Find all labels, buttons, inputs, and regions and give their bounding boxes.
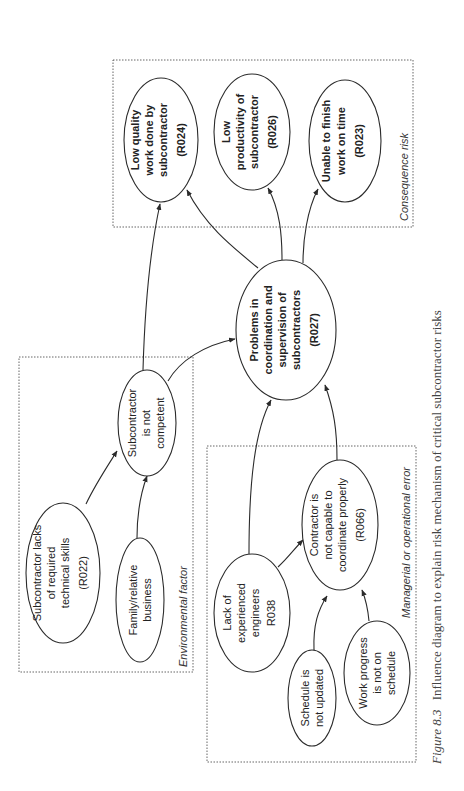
edge-r022-notcompetent xyxy=(86,451,117,504)
svg-text:coordinate properly: coordinate properly xyxy=(336,477,348,572)
svg-text:is not on: is not on xyxy=(371,652,383,694)
svg-text:work done by: work done by xyxy=(143,104,155,177)
figure-caption-text: Influence diagram to explain risk mechan… xyxy=(429,310,444,700)
svg-text:Work progress: Work progress xyxy=(357,637,369,709)
group-label-consequence: Consequence risk xyxy=(398,132,410,221)
svg-text:Schedule is: Schedule is xyxy=(299,669,311,726)
svg-text:Subcontractor: Subcontractor xyxy=(126,388,138,457)
figure-caption: Figure 8.3 Influence diagram to explain … xyxy=(429,310,444,765)
node-r024: Low quality work done by subcontractor (… xyxy=(124,78,198,202)
svg-text:Subcontractor lacks: Subcontractor lacks xyxy=(31,524,43,621)
edge-r038-r027 xyxy=(249,400,271,554)
node-schedule: Schedule is not updated xyxy=(288,650,336,746)
svg-text:of required: of required xyxy=(45,547,57,600)
svg-text:(R024): (R024) xyxy=(175,123,187,157)
edge-r027-r023 xyxy=(303,189,318,263)
svg-text:competent: competent xyxy=(154,397,166,448)
svg-text:(R022): (R022) xyxy=(77,556,89,590)
node-r038: Lack of experienced engineers R038 xyxy=(214,554,290,672)
edge-notcompetent-r024 xyxy=(143,204,160,370)
svg-text:Unable to finish: Unable to finish xyxy=(320,99,332,182)
svg-text:is not: is not xyxy=(140,410,152,436)
svg-text:R038: R038 xyxy=(265,600,277,626)
edge-schedule-r066 xyxy=(314,596,327,650)
group-label-managerial: Managerial or operational error xyxy=(400,466,412,618)
svg-text:supervision of: supervision of xyxy=(276,292,288,368)
edge-family-notcompetent xyxy=(137,476,147,538)
svg-text:Contractor is: Contractor is xyxy=(308,493,320,556)
svg-text:Lack of: Lack of xyxy=(221,594,233,630)
svg-text:Low: Low xyxy=(220,121,232,143)
edge-progress-r066 xyxy=(362,590,369,621)
node-r066: Contractor is not capable to coordinate … xyxy=(302,460,378,590)
edge-r066-r027 xyxy=(325,385,337,460)
svg-text:(R026): (R026) xyxy=(266,115,278,149)
node-family: Family/relative business xyxy=(116,538,164,662)
svg-text:Low quality: Low quality xyxy=(129,109,141,170)
svg-text:technical skills: technical skills xyxy=(59,537,71,608)
edge-r027-r024 xyxy=(187,190,258,268)
group-label-environmental: Environmental factor xyxy=(177,565,189,667)
node-r026: Low productivity of subcontractor (R026) xyxy=(214,74,290,190)
svg-text:Problems in: Problems in xyxy=(248,298,260,361)
svg-text:work on time: work on time xyxy=(335,107,347,176)
svg-text:(R066): (R066) xyxy=(354,508,366,542)
node-r027: Problems in coordination and supervision… xyxy=(236,260,336,400)
svg-text:Family/relative: Family/relative xyxy=(127,565,139,636)
svg-text:subcontractor: subcontractor xyxy=(157,102,169,177)
svg-text:(R023): (R023) xyxy=(353,124,365,158)
svg-text:not capable to: not capable to xyxy=(322,490,334,559)
svg-text:subcontractor: subcontractor xyxy=(248,94,260,169)
edge-r038-r066 xyxy=(278,540,303,567)
svg-text:business: business xyxy=(141,578,153,622)
node-not-competent: Subcontractor is not competent xyxy=(118,370,176,476)
svg-text:subcontractors: subcontractors xyxy=(290,290,302,370)
svg-text:coordination and: coordination and xyxy=(262,285,274,374)
svg-text:engineers: engineers xyxy=(249,588,261,637)
svg-text:productivity of: productivity of xyxy=(234,93,246,170)
svg-text:schedule: schedule xyxy=(385,651,397,695)
svg-text:not updated: not updated xyxy=(313,669,325,727)
edge-notcompetent-r027 xyxy=(168,339,235,381)
edge-r027-r026 xyxy=(268,188,282,260)
figure-number: Figure 8.3 xyxy=(429,709,444,765)
svg-text:(R027): (R027) xyxy=(308,313,320,347)
node-progress: Work progress is not on schedule xyxy=(344,621,410,725)
node-r022: Subcontractor lacks of required technica… xyxy=(26,503,100,643)
influence-diagram: Consequence risk Environmental factor Ma… xyxy=(0,0,464,791)
node-r023: Unable to finish work on time (R023) xyxy=(309,80,381,202)
svg-text:experienced: experienced xyxy=(235,583,247,643)
